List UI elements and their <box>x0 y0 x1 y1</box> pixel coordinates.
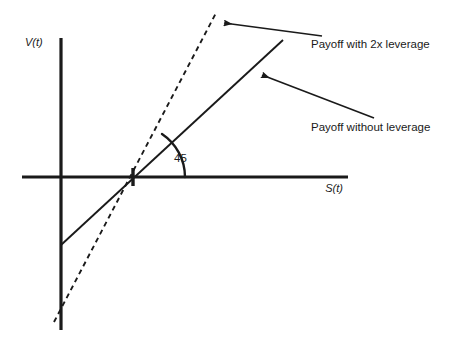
x-axis-label: S(t) <box>325 182 343 194</box>
leverage-annotation-arrow <box>224 23 322 36</box>
no-leverage-annotation-label: Payoff without leverage <box>311 121 430 133</box>
payoff-diagram-figure: V(t) S(t) 45 Payoff with 2x leverage Pay… <box>0 0 454 344</box>
leverage-annotation-label: Payoff with 2x leverage <box>311 38 430 50</box>
payoff-with-leverage-line <box>54 13 216 322</box>
angle-label: 45 <box>174 152 187 164</box>
payoff-diagram-canvas: V(t) S(t) 45 Payoff with 2x leverage Pay… <box>0 0 454 344</box>
no-leverage-annotation-arrow <box>262 75 374 118</box>
y-axis-label: V(t) <box>25 36 43 48</box>
